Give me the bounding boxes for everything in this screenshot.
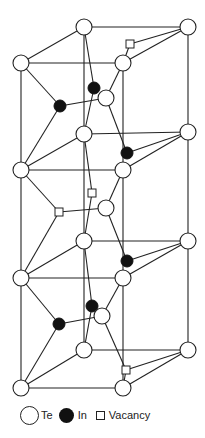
vacancy-site [55,208,63,216]
te-atom [180,342,196,358]
in-atom [121,255,133,267]
te-atom [13,270,29,286]
te-atom [76,126,92,142]
te-atom [13,380,29,396]
vacancy-site [126,40,134,48]
vacancy-square-icon [96,411,105,420]
legend-item-vacancy: Vacancy [93,409,150,421]
te-atom [13,55,29,71]
te-atom [98,200,114,216]
te-atom [76,233,92,249]
te-atom [115,270,131,286]
in-atoms [53,82,133,330]
te-circle-icon [20,406,39,425]
te-atom [180,233,196,249]
te-atom [98,90,114,106]
in-atom [121,147,133,159]
te-atoms [13,19,196,396]
legend-item-te: Te [20,406,53,425]
crystal-structure-diagram [0,0,205,404]
in-atom [54,100,66,112]
te-atom [76,342,92,358]
vacancy-site [122,366,130,374]
legend: Te In Vacancy [20,404,156,426]
vacancy-site [88,189,96,197]
te-atom [115,380,131,396]
legend-te-label: Te [41,409,53,421]
te-atom [180,19,196,35]
te-atom [180,124,196,140]
te-atom [76,19,92,35]
legend-vacancy-label: Vacancy [109,409,150,421]
in-atom [88,82,100,94]
te-atom [115,162,131,178]
te-atom [94,308,110,324]
te-atom [13,162,29,178]
legend-in-label: In [78,409,87,421]
legend-item-in: In [59,408,87,423]
te-atom [115,55,131,71]
in-atom [53,318,65,330]
in-filled-circle-icon [59,408,74,423]
